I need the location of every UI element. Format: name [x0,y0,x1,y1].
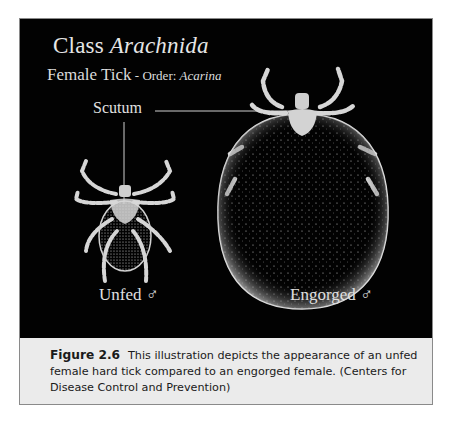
figure-panel: Class Arachnida Female Tick - Order: Aca… [19,18,433,405]
unfed-tick-body [99,185,151,271]
male-symbol-icon: ♂ [146,285,159,304]
figure-caption: Figure 2.6This illustration depicts the … [50,347,430,396]
male-symbol-icon: ♂ [360,285,373,304]
unfed-label: Unfed ♂ [99,285,158,305]
figure-subtitle: Female Tick - Order: Acarina [47,65,221,85]
tick-illustration: Class Arachnida Female Tick - Order: Aca… [20,19,432,338]
scutum-label: Scutum [93,99,142,117]
engorged-label: Engorged ♂ [290,285,373,305]
figure-title: Class Arachnida [53,33,209,59]
engorged-tick-body [218,93,388,309]
figure-number: Figure 2.6 [50,348,120,362]
